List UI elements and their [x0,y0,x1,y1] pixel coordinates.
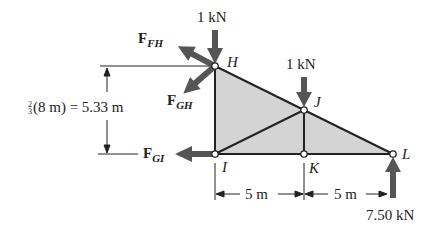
joint-L [390,151,396,157]
two-thirds-fraction: 23 [28,101,32,115]
span-KL-label: 5 m [334,187,357,202]
reaction-L-label: 7.50 kN [366,208,414,223]
height-dimension-label: 23(8 m) = 5.33 m [28,100,124,116]
FGI-arrow-head [175,146,192,162]
reaction-L-arrow-head [385,157,401,172]
node-I-label: I [222,160,227,175]
FGI-label: FGI [143,146,164,161]
joint-K [301,151,307,157]
load-H-label: 1 kN [197,10,227,25]
reaction-L-arrow-shaft [390,170,396,198]
FGH-label: FGH [167,93,193,108]
FFH-label: FFH [138,31,163,46]
truss-diagram [0,0,442,234]
node-L-label: L [402,147,410,162]
span-IK-label: 5 m [245,187,268,202]
span-dimension [215,163,387,200]
load-J-arrow-head [296,92,312,107]
joint-I [212,151,218,157]
node-K-label: K [309,161,319,176]
node-H-label: H [227,55,238,70]
joint-J [301,107,307,113]
load-J-label: 1 kN [286,57,316,72]
joint-H [212,63,218,69]
FGI-arrow-shaft [190,151,213,157]
node-J-label: J [314,95,321,110]
